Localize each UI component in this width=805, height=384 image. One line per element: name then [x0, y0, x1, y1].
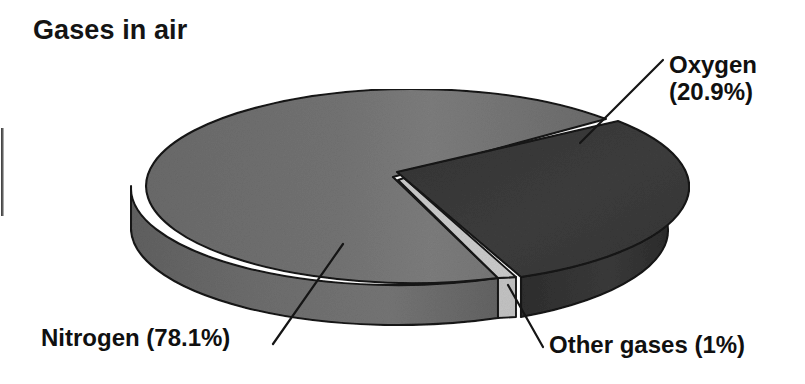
pie-slice-other-gases-side	[498, 277, 516, 318]
slice-label-oxygen-name: Oxygen	[669, 51, 757, 78]
slice-label-oxygen: Oxygen (20.9%)	[669, 52, 757, 106]
pie-chart-figure: Gases in air	[0, 0, 805, 384]
slice-label-oxygen-value: (20.9%)	[669, 79, 757, 106]
slice-label-other-gases: Other gases (1%)	[549, 332, 745, 359]
slice-label-nitrogen: Nitrogen (78.1%)	[41, 325, 230, 352]
